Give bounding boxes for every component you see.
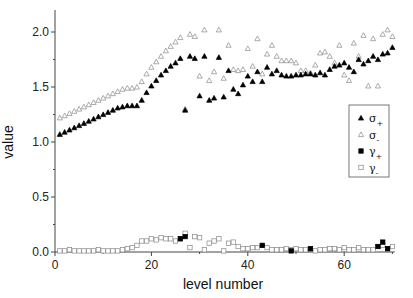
data-point [380,32,385,37]
data-point [255,36,260,41]
legend-marker-icon [359,149,363,153]
data-point [120,104,125,109]
data-point [86,119,91,124]
legend-subscript: - [376,169,379,178]
data-point [313,62,318,67]
data-point [385,50,390,55]
data-point [163,48,168,53]
data-point [140,239,144,243]
legend-marker-icon [359,165,363,169]
data-point [91,249,95,253]
data-point [250,245,254,249]
y-axis-title: value [0,125,16,159]
data-point [216,55,221,60]
data-point [101,112,106,117]
axes: 0.00.51.01.52.00204060 [32,10,394,272]
data-point [371,36,376,41]
data-point [62,130,67,135]
data-point [265,245,269,249]
data-point [96,114,101,119]
data-point [87,249,91,253]
data-point [62,113,67,118]
data-point [294,247,298,251]
data-point [115,89,120,94]
data-point [342,72,347,77]
data-point [270,248,274,252]
legend: σ+σ-γ+γ- [349,105,389,178]
y-tick-label: 2.0 [32,25,49,39]
data-point [366,248,370,252]
data-point [134,103,139,108]
data-point [361,248,365,252]
y-tick-label: 0.5 [32,190,49,204]
data-point [197,93,202,98]
data-point [231,87,236,92]
data-point [337,43,342,48]
data-point [337,62,342,67]
data-point [154,238,158,242]
data-point [274,68,279,73]
data-point [245,73,250,78]
data-point [250,64,255,69]
data-point [260,71,265,76]
x-tick-label: 0 [52,258,59,272]
y-tick-label: 1.0 [32,135,49,149]
data-point [352,248,356,252]
data-point [58,249,62,253]
data-point [207,98,212,103]
y-tick-label: 1.5 [32,80,49,94]
data-point [110,108,115,113]
data-point [390,244,394,248]
data-point [105,110,110,115]
data-point [96,98,101,103]
data-point [216,27,221,32]
data-point [313,72,318,77]
data-point [62,249,66,253]
data-point [197,236,201,240]
data-point [173,239,177,243]
data-point [346,78,351,83]
data-point [115,249,119,253]
data-point [260,79,265,84]
data-point [67,111,72,116]
data-point [327,67,332,72]
data-point [385,247,389,251]
x-axis-title: level number [183,276,263,292]
data-point [149,65,154,70]
data-point [125,103,130,108]
data-point [226,68,231,73]
data-point [149,83,154,88]
data-point [231,240,235,244]
data-point [77,106,82,111]
data-point [77,123,82,128]
data-point [178,237,182,241]
data-point [125,247,129,251]
data-point [168,237,172,241]
data-point [318,70,323,75]
data-point [351,69,356,74]
x-tick-label: 20 [145,258,159,272]
data-point [207,78,212,83]
data-point [163,68,168,73]
data-point [144,71,149,76]
data-point [337,248,341,252]
data-point [221,76,226,81]
scatter-chart: 0.00.51.01.52.00204060 level number valu… [0,0,413,298]
data-point [197,73,202,78]
data-point [226,43,231,48]
data-point [101,95,106,100]
data-point [279,248,283,252]
data-point [240,67,245,72]
data-point [139,98,144,103]
data-point [77,249,81,253]
data-point [289,58,294,63]
data-point [67,248,71,252]
data-point [72,249,76,253]
data-point [289,249,293,253]
data-point [158,72,163,77]
legend-subscript: + [377,119,384,128]
data-point [211,95,216,100]
data-point [375,83,380,88]
data-point [318,248,322,252]
data-point [361,33,366,38]
